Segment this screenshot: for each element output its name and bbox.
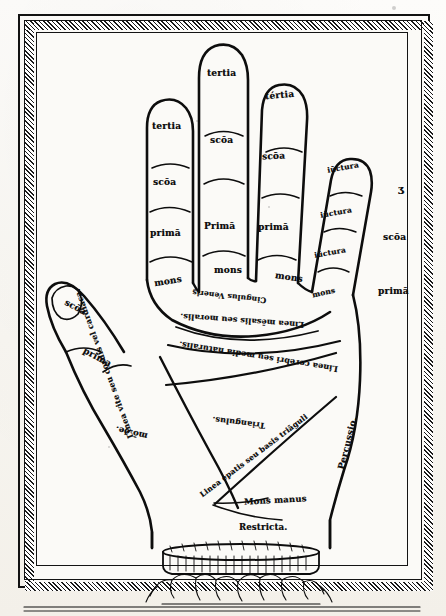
middle-crease-3 [203,251,245,256]
middle-segment-prima: Primā [204,221,235,231]
ring-crease-3 [258,256,296,261]
paper-speck [268,206,270,208]
little-outer-label-3: ʒ [398,183,404,194]
ring-finger-outline [256,84,307,283]
hepatic-line [215,397,336,504]
foliate-ornament [146,574,332,604]
paper-speck [392,6,396,10]
index-crease-3 [150,257,192,262]
wrist-cuff [163,541,319,574]
ring-crease-2 [262,194,299,198]
index-crease-1 [152,164,189,168]
middle-segment-tertia: tertia [207,68,236,78]
middle-mount: mons [214,265,242,275]
middle-crease-2 [204,179,244,184]
little-crease-3 [318,268,349,272]
index-crease-2 [150,208,190,213]
woodcut-page: tertia scōa primā mons tertia scōa Primā… [0,0,446,616]
index-segment-prima: primā [150,228,181,238]
life-line [160,357,238,508]
little-outer-label-prima: primā [378,286,409,296]
middle-segment-secunda: scōa [210,135,233,145]
little-finger-outline [312,159,372,295]
index-segment-tertia: tertia [152,121,181,131]
web-ring-little [298,283,312,292]
ring-segment-prima: primā [258,222,289,232]
restricta-label: Restricta. [239,522,287,532]
paper-speck [108,446,110,448]
little-outer-label-secunda: scōa [383,232,406,242]
restricta-line-1 [213,505,282,520]
index-segment-secunda: scōa [153,177,176,187]
little-crease-2 [324,229,356,233]
ring-segment-secunda: scōa [262,150,286,161]
little-crease-1 [330,193,362,197]
paper-speck [196,120,198,122]
